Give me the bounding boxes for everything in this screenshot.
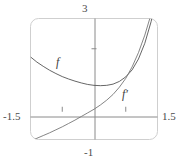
function-graph-figure: 3 -1 -1.5 1.5 f f′ — [0, 0, 185, 163]
curve-label-f: f — [56, 56, 59, 68]
plot-canvas — [0, 0, 185, 163]
axis-label-top: 3 — [82, 3, 88, 14]
axis-label-bottom: -1 — [84, 147, 93, 158]
curve-label-f-prime: f′ — [122, 88, 128, 100]
axis-label-right: 1.5 — [162, 111, 176, 122]
axis-label-left: -1.5 — [3, 111, 20, 122]
plot-frame — [31, 19, 158, 140]
curve-f — [31, 0, 158, 86]
